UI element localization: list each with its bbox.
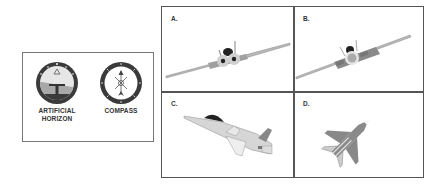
option-b[interactable]: B.	[294, 7, 424, 91]
instrument-panel: ARTIFICIAL HORIZON	[22, 52, 154, 142]
artificial-horizon: ARTIFICIAL HORIZON	[29, 61, 85, 123]
jet-top-view-heading-northeast-icon	[294, 92, 424, 178]
artificial-horizon-label: ARTIFICIAL HORIZON	[29, 107, 85, 123]
option-c[interactable]: C.	[162, 92, 293, 178]
jet-rear-view-bank-left-icon	[162, 7, 293, 91]
jet-side-view-pitch-up-icon	[162, 92, 293, 178]
compass: COMPASS	[93, 61, 149, 115]
compass-label: COMPASS	[93, 107, 149, 115]
compass-icon	[99, 61, 143, 105]
option-a[interactable]: A.	[162, 7, 293, 91]
option-d[interactable]: D.	[294, 92, 424, 178]
answer-options-grid: A. B. C.	[161, 6, 424, 178]
artificial-horizon-icon	[35, 61, 79, 105]
jet-rear-view-bank-right-icon	[294, 7, 424, 91]
